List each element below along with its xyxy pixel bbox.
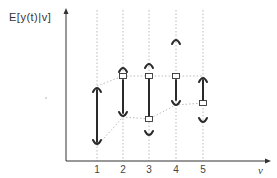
x-tick-4: 4: [173, 164, 179, 175]
stray-dot: [45, 97, 46, 98]
bounds-diagram: [0, 0, 277, 178]
interval-arrows: [93, 40, 207, 144]
x-axis-label: v: [258, 164, 263, 176]
y-axis-arrow-icon: [64, 8, 69, 14]
x-tick-1: 1: [94, 164, 100, 175]
y-axis-label: E[y(t)|v]: [9, 11, 51, 23]
x-axis-arrow-icon: [265, 159, 271, 164]
x-tick-2: 2: [120, 164, 126, 175]
value-boxes: [120, 74, 207, 122]
x-tick-5: 5: [200, 164, 206, 175]
x-tick-3: 3: [146, 164, 152, 175]
